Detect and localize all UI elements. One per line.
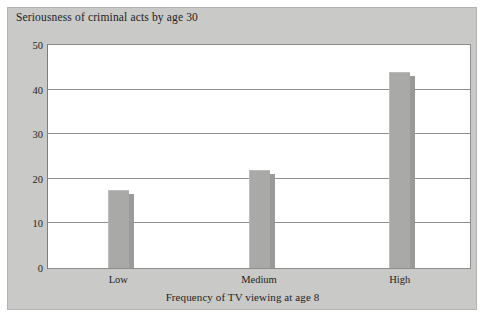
bar-shadow [129, 194, 134, 268]
x-tick-label: High [389, 274, 410, 285]
y-tick-label: 50 [9, 40, 43, 51]
x-axis-tick-labels: LowMediumHigh [48, 274, 470, 290]
bar-shadow [410, 76, 415, 268]
chart-title: Seriousness of criminal acts by age 30 [16, 11, 198, 23]
bar [389, 72, 410, 268]
y-tick-label: 0 [9, 263, 43, 274]
y-tick-label: 40 [9, 84, 43, 95]
x-tick-label: Low [109, 274, 128, 285]
y-tick-label: 10 [9, 218, 43, 229]
bar [249, 170, 270, 268]
y-tick-label: 30 [9, 129, 43, 140]
x-axis-title: Frequency of TV viewing at age 8 [0, 291, 485, 303]
bars-layer [48, 45, 470, 268]
bar [108, 190, 129, 268]
y-tick-label: 20 [9, 173, 43, 184]
chart-figure: Seriousness of criminal acts by age 30 0… [0, 0, 485, 317]
y-axis-tick-labels: 01020304050 [0, 44, 43, 269]
x-tick-label: Medium [241, 274, 277, 285]
bar-shadow [270, 174, 275, 268]
